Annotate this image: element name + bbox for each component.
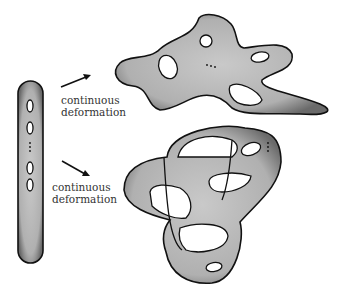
arrow-down <box>62 161 90 176</box>
diagram-canvas <box>0 0 344 304</box>
arrow-up <box>61 74 91 87</box>
label-line: continuous <box>61 94 126 106</box>
knot-surface <box>124 126 281 283</box>
label-line: deformation <box>52 193 117 205</box>
diagram: continuous deformation continuous deform… <box>0 0 344 304</box>
arrow-label-top: continuous deformation <box>61 94 126 118</box>
arrow-label-bottom: continuous deformation <box>52 181 117 205</box>
blob-surface <box>116 15 328 115</box>
source-surface <box>18 81 43 263</box>
label-line: continuous <box>52 181 117 193</box>
label-line: deformation <box>61 106 126 118</box>
